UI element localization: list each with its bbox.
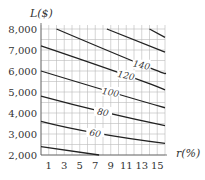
y-axis-label: L($)	[29, 7, 53, 20]
x-axis-label: r(%)	[176, 147, 200, 160]
x-tick-label: 3	[61, 160, 67, 171]
x-tick-label: 7	[92, 160, 98, 171]
contour-line-40	[41, 147, 99, 155]
x-tick-label: 13	[135, 160, 148, 171]
x-tick-label: 5	[77, 160, 83, 171]
x-tick-label: 9	[108, 160, 114, 171]
contour-label-80: 80	[96, 106, 110, 118]
x-tick-label: 11	[120, 160, 133, 171]
x-tick-label: 1	[46, 160, 52, 171]
contour-label-60: 60	[89, 127, 103, 139]
y-tick-label: 6,000	[8, 66, 37, 77]
x-tick-label: 15	[151, 160, 164, 171]
contour-label-120: 120	[117, 69, 136, 82]
y-tick-label: 2,000	[8, 150, 37, 161]
y-tick-label: 5,000	[8, 87, 37, 98]
y-tick-label: 4,000	[8, 108, 37, 119]
y-tick-label: 8,000	[8, 24, 37, 35]
y-tick-label: 3,000	[8, 129, 37, 140]
contour-chart: 2,0003,0004,0005,0006,0007,0008,00013579…	[0, 0, 205, 180]
contour-label-140: 140	[132, 59, 151, 72]
y-tick-label: 7,000	[8, 45, 37, 56]
